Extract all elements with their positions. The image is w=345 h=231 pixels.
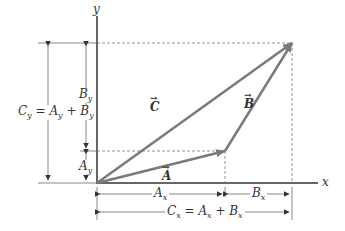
vector-a-label: →A xyxy=(162,170,171,182)
bx-label: Bx xyxy=(250,187,267,202)
cy-equation-label: Cy = Ay + By xyxy=(18,105,94,120)
ay-label: Ay xyxy=(79,160,92,175)
x-axis-label: x xyxy=(322,176,329,188)
vector-b xyxy=(225,43,292,151)
vectors xyxy=(97,43,292,183)
ax-label: Ax xyxy=(152,187,169,202)
y-axis-label: y xyxy=(93,3,100,15)
vector-b-label: →B xyxy=(244,98,254,110)
vector-addition-diagram: y x →C →B →A By Ay Cy = Ay + By Ax Bx Cx… xyxy=(0,0,345,231)
vector-a xyxy=(97,151,225,183)
vector-c-label: →C xyxy=(150,101,160,113)
by-label: By xyxy=(79,88,92,103)
vector-c xyxy=(97,43,292,183)
cx-equation-label: Cx = Ax + Bx xyxy=(165,205,245,220)
